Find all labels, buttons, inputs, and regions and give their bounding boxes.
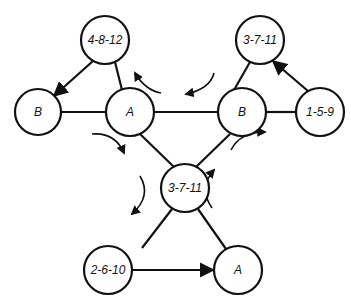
node-label: 3-7-11: [243, 33, 277, 47]
edge-center-2-6-10: [142, 209, 172, 248]
node-label: 2-6-10: [90, 263, 126, 277]
node-3-7-11-center: 3-7-11: [161, 164, 209, 212]
rotation-arrow-icon: [92, 134, 124, 153]
node-label: 1-5-9: [306, 105, 334, 119]
node-1-5-9: 1-5-9: [296, 88, 344, 136]
rotation-arrow-icon: [132, 176, 145, 214]
tournament-rotation-diagram: 4-8-12 B A B 3-7-11 1-5-9 3-7-11 2-6-10 …: [0, 0, 351, 303]
edge-A-center: [140, 134, 174, 167]
node-B-left: B: [15, 89, 61, 135]
edge-center-A-bottom: [198, 209, 226, 249]
node-3-7-11-top: 3-7-11: [236, 16, 284, 64]
edge-4-8-12-to-B: [55, 61, 93, 95]
edge-1-5-9-to-3-7-11: [274, 62, 308, 91]
node-label: A: [125, 105, 134, 119]
edge-4-8-12-A: [115, 62, 122, 90]
rotation-arrow-icon: [186, 73, 214, 94]
node-4-8-12: 4-8-12: [81, 16, 129, 64]
node-label: B: [238, 105, 246, 119]
node-label: 3-7-11: [168, 181, 202, 195]
node-A-bottom: A: [214, 246, 262, 294]
node-A-top: A: [106, 88, 154, 136]
node-label: B: [34, 105, 42, 119]
edge-B-3-7-11-top: [234, 62, 250, 90]
node-label: 4-8-12: [88, 33, 123, 47]
edge-B-center: [196, 134, 230, 167]
node-B-right: B: [218, 88, 266, 136]
node-2-6-10: 2-6-10: [84, 246, 132, 294]
node-label: A: [233, 263, 242, 277]
